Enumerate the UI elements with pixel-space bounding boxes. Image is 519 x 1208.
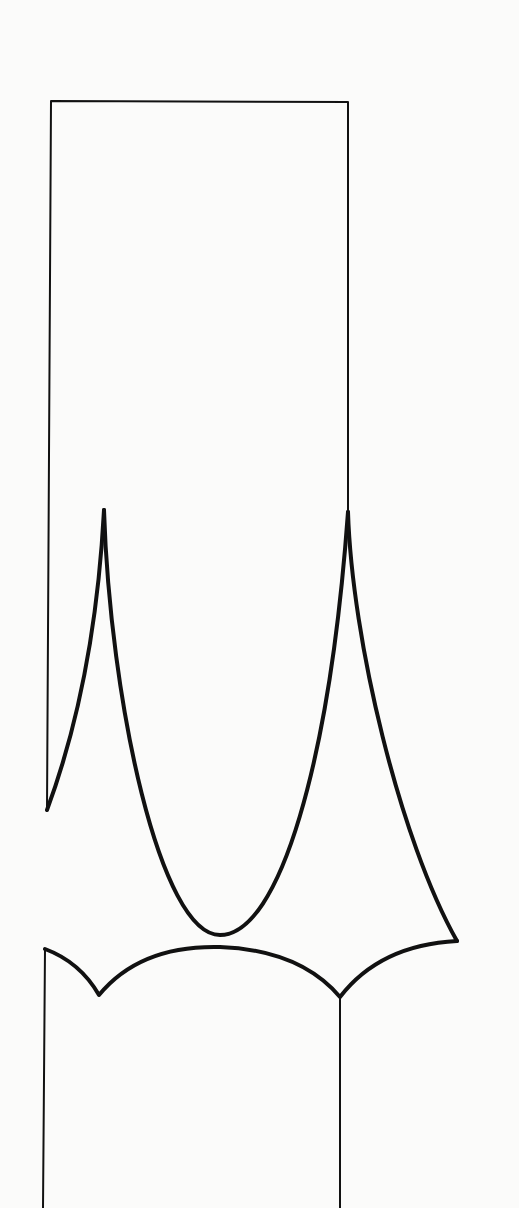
left-outer-curve [47, 510, 104, 810]
right-outer-curve [348, 512, 457, 941]
line-drawing [0, 0, 519, 1208]
lower-left-side [43, 949, 45, 1208]
lower-scalloped-top [45, 941, 457, 997]
inner-u-curve [104, 510, 348, 935]
upper-rectangle-outline [47, 101, 348, 810]
